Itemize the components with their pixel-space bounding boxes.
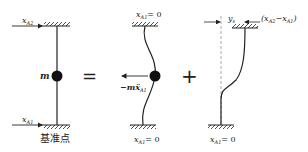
panel-3-support-displacement: ys (xA2−xA1) xA1= 0 bbox=[204, 14, 297, 145]
svg-text:xA1= 0: xA1= 0 bbox=[136, 10, 162, 20]
svg-text:xA1: xA1 bbox=[22, 115, 33, 125]
mass-label: m bbox=[40, 71, 50, 81]
svg-text:−mẍA1: −mẍA1 bbox=[120, 82, 147, 93]
top-fixed-support-displaced bbox=[232, 24, 258, 28]
svg-text:xA2: xA2 bbox=[22, 16, 33, 26]
svg-text:xA1= 0: xA1= 0 bbox=[210, 135, 236, 145]
svg-text:ys: ys bbox=[227, 14, 236, 24]
svg-text:(xA2−xA1): (xA2−xA1) bbox=[261, 14, 297, 24]
equals-operator: = bbox=[82, 65, 97, 86]
top-fixed-support bbox=[132, 22, 158, 26]
bottom-fixed-support bbox=[130, 125, 156, 129]
deflected-column bbox=[221, 28, 245, 125]
plus-operator: + bbox=[181, 64, 198, 88]
mass-node bbox=[150, 71, 161, 82]
structural-diagram: xA2 m xA1 基准点 = xA1= 0 −mẍA1 xA1= 0 bbox=[0, 0, 308, 152]
reference-point-label: 基准点 bbox=[40, 132, 70, 144]
svg-text:xA1= 0: xA1= 0 bbox=[134, 135, 160, 145]
bottom-fixed-support bbox=[208, 125, 234, 129]
top-fixed-support bbox=[40, 22, 70, 26]
mass-node bbox=[52, 71, 63, 82]
panel-1-original-system: xA2 m xA1 基准点 bbox=[12, 16, 70, 144]
panel-2-quasi-static-inertia: xA1= 0 −mẍA1 xA1= 0 bbox=[120, 10, 162, 145]
bottom-fixed-support bbox=[40, 125, 70, 129]
